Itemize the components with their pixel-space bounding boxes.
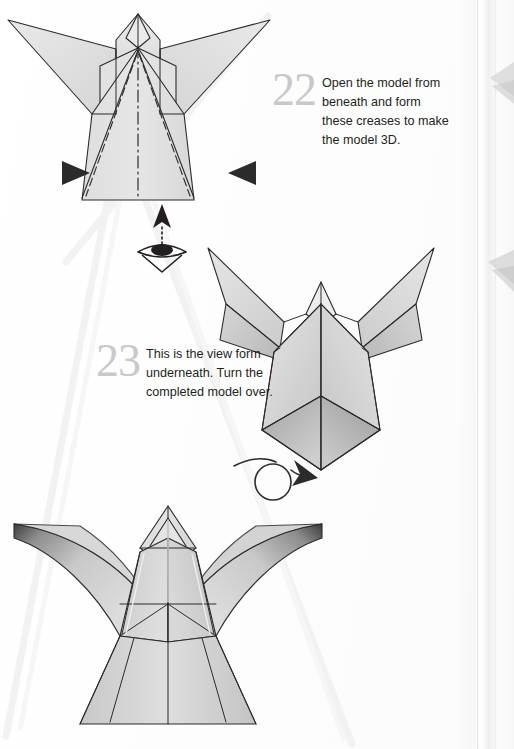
step-23-number: 23	[96, 341, 140, 381]
push-arrow-right-icon	[56, 156, 96, 190]
step-23: 23 This is the view form underneath. Tur…	[96, 345, 274, 402]
facing-page-bleedthrough	[458, 0, 514, 749]
step-22: 22 Open the model from beneath and form …	[272, 74, 454, 150]
push-arrow-left-icon	[222, 156, 262, 190]
step-22-number: 22	[272, 70, 316, 110]
step-23-text: This is the view form underneath. Turn t…	[146, 345, 274, 402]
view-direction-eye-icon	[124, 200, 200, 272]
figure-completed-model	[10, 486, 326, 744]
step-22-text: Open the model from beneath and form the…	[322, 74, 454, 150]
origami-instruction-page: 22 Open the model from beneath and form …	[0, 0, 514, 749]
